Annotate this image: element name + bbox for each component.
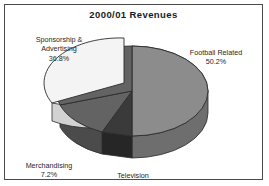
slice-label-television-text: Television [117,171,149,180]
slice-label-sponsorship-advertising: Sponsorship & Advertising 36.8% [17,25,101,73]
slice-label-sponsorship-advertising-value: 36.8% [17,54,101,64]
slice-side-television [102,132,132,158]
pie-chart: Sponsorship & Advertising 36.8% Football… [5,5,263,180]
slice-label-merchandising-value: 7.2% [7,170,91,180]
slice-label-football-related: Football Related 50.2% [173,38,259,76]
slice-label-merchandising-text: Merchandising [26,161,73,170]
slice-label-television: Television 6.5% [91,161,175,180]
chart-frame: 2000/01 Revenues [4,4,263,180]
slice-label-football-related-text: Football Related [190,48,242,57]
slice-label-sponsorship-advertising-text: Sponsorship & Advertising [36,35,83,54]
slice-label-football-related-value: 50.2% [173,57,259,67]
slice-label-merchandising: Merchandising 7.2% [7,151,91,180]
